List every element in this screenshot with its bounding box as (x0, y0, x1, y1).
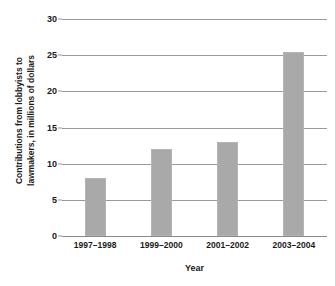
y-tick-label-20: 20 (47, 86, 57, 96)
y-axis-title: Contributions from lobbyists to lawmaker… (8, 0, 42, 240)
x-tick-label-1: 1999–2000 (140, 240, 183, 250)
y-tick-label-5: 5 (52, 195, 57, 205)
plot-area: 30 25 20 15 10 5 0 (62, 19, 327, 236)
x-tick-label-0: 1997–1998 (74, 240, 117, 250)
x-axis-title: Year (62, 263, 327, 273)
y-tick-label-25: 25 (47, 50, 57, 60)
y-tick-label-0: 0 (52, 231, 57, 241)
y-tick-label-15: 15 (47, 123, 57, 133)
bar-chart: Contributions from lobbyists to lawmaker… (0, 0, 335, 286)
y-axis-title-line-1: Contributions from lobbyists to (14, 55, 26, 186)
bars-layer (62, 19, 327, 236)
bar-1997-1998 (85, 178, 106, 236)
gridline-0 (62, 236, 327, 237)
y-axis-title-line-2: lawmakers, in millions of dollars (25, 55, 37, 186)
bar-1999-2000 (151, 149, 172, 236)
x-axis-labels: 1997–1998 1999–2000 2001–2002 2003–2004 (62, 240, 327, 254)
y-tick-label-30: 30 (47, 14, 57, 24)
bar-2003-2004 (283, 52, 304, 236)
x-tick-label-2: 2001–2002 (206, 240, 249, 250)
y-tick-label-10: 10 (47, 159, 57, 169)
x-tick-label-3: 2003–2004 (273, 240, 316, 250)
bar-2001-2002 (217, 142, 238, 236)
